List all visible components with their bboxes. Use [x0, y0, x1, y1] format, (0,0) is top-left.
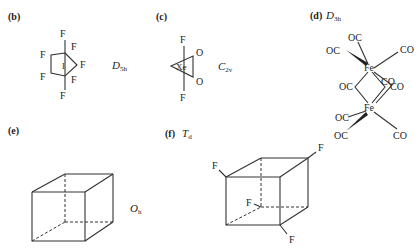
atom-f: F: [246, 197, 252, 208]
wedge-bond: [346, 112, 368, 131]
panel-e-label: (e): [8, 125, 19, 137]
atom-f-right: F: [80, 59, 86, 70]
cube-edge: [280, 207, 308, 225]
atom-i: I: [62, 62, 65, 71]
symmetry-f: Td: [182, 127, 192, 141]
atom-f: F: [318, 142, 324, 153]
atom-f-bottom: F: [180, 92, 186, 103]
bridge-left: [355, 72, 368, 103]
atom-f-lower-left: F: [40, 71, 46, 82]
bond: [308, 152, 316, 158]
symmetry-b: D5h: [111, 59, 127, 73]
bond: [219, 170, 226, 177]
atom-f-lower-right: F: [71, 74, 77, 85]
bond: [374, 52, 398, 68]
atom-f: F: [212, 160, 218, 171]
ligand-oc: OC: [326, 45, 340, 56]
atom-fe-lower: Fe: [364, 102, 375, 113]
symmetry-d: D3h: [325, 9, 341, 23]
atom-fe-upper: Fe: [364, 62, 375, 73]
atom-o-upper: O: [196, 47, 203, 58]
ligand-co: CO: [390, 81, 404, 92]
atom-f-top: F: [60, 28, 66, 39]
ligand-oc: OC: [339, 81, 353, 92]
panel-d: (d) D3h Fe Fe OC OC CO OC CO CO OC OC CO: [310, 9, 414, 141]
cube-edge: [85, 222, 113, 241]
symmetry-e: Oh: [130, 202, 142, 216]
bond: [280, 225, 287, 234]
panel-c: (c) F F O O Xe C2v: [156, 11, 233, 103]
point-group-figure: (b) F F F F F F F I D5h (c) F F O O Xe C…: [0, 0, 419, 249]
atom-xe: Xe: [176, 62, 187, 72]
cube-edge: [85, 174, 113, 192]
panel-b: (b) F F F F F F F I D5h: [8, 11, 127, 101]
panel-c-label: (c): [156, 11, 167, 23]
symmetry-c: C2v: [218, 60, 233, 74]
ligand-co: CO: [393, 130, 407, 141]
bond: [254, 204, 261, 207]
cube-edge: [226, 158, 261, 177]
panel-b-label: (b): [8, 11, 20, 23]
bond: [374, 112, 397, 129]
cube-front-face: [32, 192, 85, 241]
panel-d-label: (d): [310, 10, 322, 22]
cube-hidden-edge: [32, 222, 65, 241]
cube-edge: [32, 174, 65, 192]
atom-f-upper-left: F: [40, 49, 46, 60]
ligand-co: CO: [400, 44, 414, 55]
ligand-oc: OC: [334, 130, 348, 141]
panel-e: (e) Oh: [8, 125, 142, 241]
atom-f-upper-right: F: [71, 41, 77, 52]
atom-f: F: [289, 234, 295, 245]
cube-edge: [280, 158, 308, 177]
ligand-oc: OC: [348, 32, 362, 43]
panel-f: (f) Td F F F F: [165, 127, 324, 245]
panel-f-label: (f): [165, 128, 175, 140]
atom-f-top: F: [180, 34, 186, 45]
atom-o-lower: O: [196, 76, 203, 87]
cube-front-face: [226, 177, 280, 225]
ligand-oc: OC: [335, 112, 349, 123]
atom-f-bottom: F: [60, 90, 66, 101]
cube-hidden-edge: [226, 207, 261, 225]
